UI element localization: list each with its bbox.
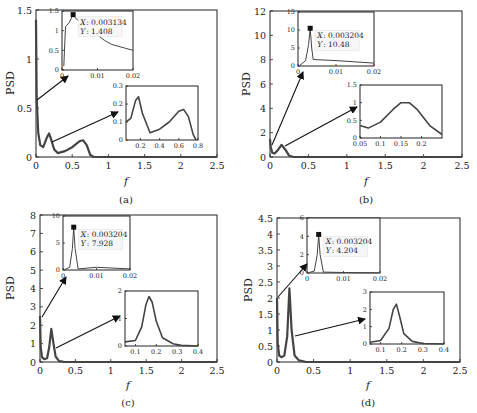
inset-lower: 0.10.20.30.40123 xyxy=(363,288,449,354)
panel-caption: (b) xyxy=(359,194,373,205)
x-tick-label: 1 xyxy=(105,160,111,171)
x-axis-label: f xyxy=(365,379,372,392)
y-tick-label: 10 xyxy=(254,30,266,41)
y-tick-label: 0 xyxy=(260,152,266,163)
x-tick-label: 0.2 xyxy=(397,346,407,354)
y-tick-label: 4 xyxy=(260,103,266,114)
x-tick-label: 0.2 xyxy=(151,348,161,356)
x-tick-label: 0.02 xyxy=(123,272,137,280)
y-tick-label: 0 xyxy=(291,62,295,70)
x-tick-label: 0.8 xyxy=(193,142,203,150)
panel-caption: (c) xyxy=(121,397,135,408)
x-tick-label: 1.5 xyxy=(139,365,154,376)
y-tick-label: 10 xyxy=(287,26,295,34)
y-axis-label: PSD xyxy=(4,71,17,95)
y-tick-label: 0 xyxy=(55,66,59,74)
y-tick-label: 1.5 xyxy=(17,5,32,16)
y-tick-label: 0.5 xyxy=(258,341,273,352)
inset-lower: 0.10.20.30.4012 xyxy=(118,287,203,356)
y-tick-label: 0 xyxy=(56,266,60,274)
y-tick-label: 2 xyxy=(30,320,36,331)
data-tip-x-label: X xyxy=(80,230,87,239)
data-tip-x-label: X xyxy=(325,237,332,246)
y-tick-label: 3 xyxy=(363,288,367,296)
panel-b: 00.511.522.5024681012 PSD f (b) 00.010.0… xyxy=(240,6,470,206)
data-tip-x-value: : 0.003204 xyxy=(323,31,364,40)
y-tick-label: 8 xyxy=(260,54,266,65)
x-tick-label: 0 xyxy=(305,275,309,283)
x-tick-label: 0.5 xyxy=(306,365,321,376)
y-tick-label: 2.5 xyxy=(258,277,273,288)
x-tick-label: 0 xyxy=(267,160,273,171)
x-tick-label: 0.2 xyxy=(135,142,145,150)
x-tick-label: 2.5 xyxy=(209,365,224,376)
x-tick-label: 0.02 xyxy=(367,68,381,76)
y-axis-label: PSD xyxy=(242,278,255,302)
x-tick-label: 0.4 xyxy=(193,348,203,356)
y-tick-label: 2 xyxy=(118,287,122,295)
x-tick-label: 1 xyxy=(108,365,114,376)
y-tick-label: 5 xyxy=(291,44,295,52)
x-tick-label: 0.02 xyxy=(126,72,140,80)
y-tick-label: 0.3 xyxy=(113,82,123,90)
axes-frame xyxy=(360,85,442,138)
panel-c: 00.511.522.5012345678 PSD f (c) 00.010.0… xyxy=(4,210,225,409)
x-tick-label: 2.5 xyxy=(454,160,469,171)
y-tick-label: 0 xyxy=(30,357,36,368)
x-tick-label: 1 xyxy=(344,160,350,171)
y-tick-label: 0 xyxy=(363,340,367,348)
x-tick-label: 0.01 xyxy=(89,272,103,280)
y-tick-label: 7 xyxy=(30,228,36,239)
data-tip-marker xyxy=(308,26,313,31)
x-tick-label: 0.1 xyxy=(375,140,385,148)
y-tick-label: 2 xyxy=(260,127,266,138)
x-tick-label: 0 xyxy=(60,72,64,80)
x-tick-label: 0 xyxy=(33,160,39,171)
axes-frame xyxy=(126,86,198,140)
x-tick-label: 2 xyxy=(179,365,185,376)
y-tick-label: 0.5 xyxy=(17,103,32,114)
y-tick-label: 0.2 xyxy=(113,100,123,108)
x-tick-label: 1 xyxy=(347,365,353,376)
y-tick-label: 12 xyxy=(254,6,266,17)
x-tick-label: 0.5 xyxy=(301,160,316,171)
y-tick-label: 1 xyxy=(26,54,32,65)
x-tick-label: 0.02 xyxy=(373,275,387,283)
x-tick-label: 0 xyxy=(296,68,300,76)
data-tip-x-value: : 0.003204 xyxy=(332,237,373,246)
y-tick-label: 2 xyxy=(363,306,367,314)
data-tip-x-value: : 0.003134 xyxy=(86,18,127,27)
y-tick-label: 4 xyxy=(30,283,36,294)
y-tick-label: 2 xyxy=(300,251,304,259)
data-tip-marker xyxy=(316,232,321,237)
y-tick-label: 3.5 xyxy=(258,245,273,256)
y-tick-label: 6 xyxy=(300,214,304,222)
data-tip-y-value: : 4.204 xyxy=(332,246,359,255)
data-tip-y-value: : 10.48 xyxy=(323,40,350,49)
x-axis-label: f xyxy=(123,175,130,188)
panel-caption: (d) xyxy=(361,397,375,408)
x-tick-label: 0.5 xyxy=(65,160,80,171)
y-tick-label: 0 xyxy=(353,134,357,142)
data-tip-y-value: : 1.408 xyxy=(86,27,113,36)
y-tick-label: 0 xyxy=(267,357,273,368)
x-tick-label: 2.5 xyxy=(452,365,467,376)
x-tick-label: 0.4 xyxy=(154,142,164,150)
y-tick-label: 10 xyxy=(52,212,60,220)
data-tip-marker xyxy=(71,225,76,230)
y-tick-label: 0.5 xyxy=(347,117,357,125)
y-tick-label: 0 xyxy=(26,152,32,163)
y-tick-label: 1.5 xyxy=(347,81,357,89)
x-axis-label: f xyxy=(363,175,370,188)
y-tick-label: 5 xyxy=(56,239,60,247)
y-tick-label: 3 xyxy=(30,301,36,312)
y-axis-label: PSD xyxy=(240,72,253,96)
x-tick-label: 0.2 xyxy=(416,140,426,148)
x-tick-label: 2 xyxy=(178,160,184,171)
figure: 00.511.522.500.511.5 PSD f (a) 00.010.02… xyxy=(0,0,477,413)
x-tick-label: 0.01 xyxy=(329,68,343,76)
y-tick-label: 1.5 xyxy=(258,309,273,320)
data-tip-y-value: : 7.928 xyxy=(87,239,114,248)
y-tick-label: 15 xyxy=(287,8,295,16)
x-tick-label: 0.4 xyxy=(439,346,449,354)
